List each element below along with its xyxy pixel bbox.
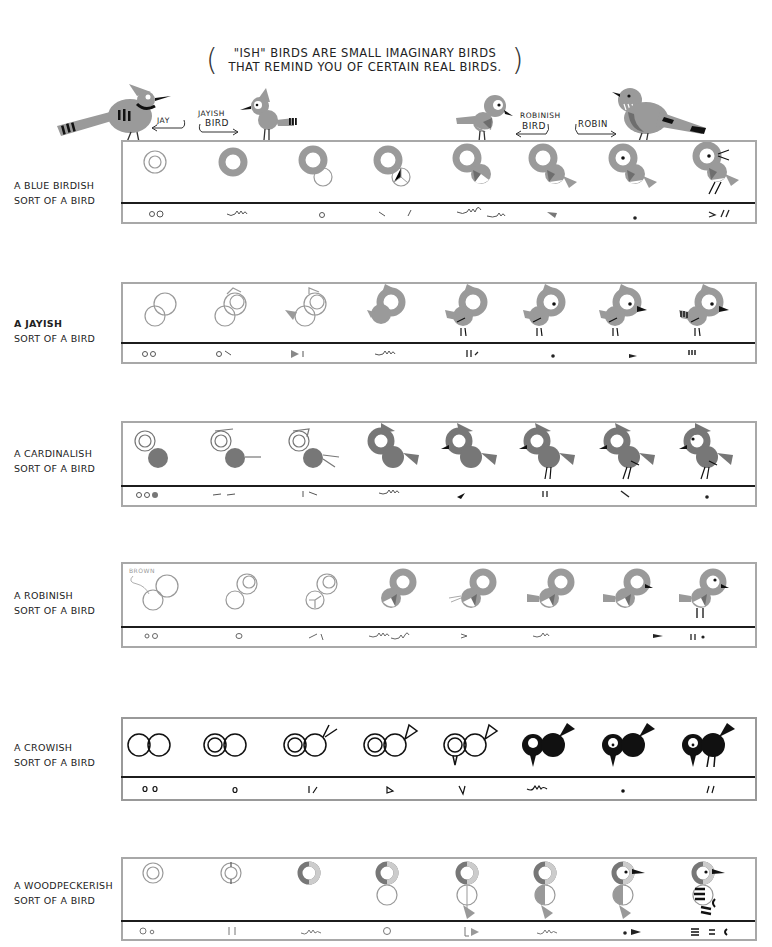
note-brown: BROWN	[129, 566, 155, 575]
row-label-robinish: A ROBINISH SORT OF A BIRD	[14, 588, 95, 618]
perch-line	[121, 776, 755, 778]
robin-illustration	[612, 84, 712, 144]
open-paren: (	[206, 46, 218, 74]
intro-line-1: "ISH" BIRDS ARE SMALL IMAGINARY BIRDS	[210, 46, 520, 60]
jayish-steps	[123, 284, 755, 362]
label-jay: JAY	[157, 116, 170, 125]
frame-bluebirdish	[121, 140, 757, 224]
robinish-steps	[123, 564, 755, 646]
jayish-bird-illustration	[236, 88, 306, 142]
frame-crowish	[121, 717, 757, 801]
row-label-line-2: SORT OF A BIRD	[14, 193, 95, 208]
top-scene: JAY JAYISH BIRD ROBINISH BIRD ROBIN	[0, 78, 772, 142]
row-label-cardinalish: A CARDINALISH SORT OF A BIRD	[14, 446, 95, 476]
perch-line	[121, 626, 755, 628]
row-label-line-2: SORT OF A BIRD	[14, 331, 95, 346]
row-label-line-1: A CARDINALISH	[14, 446, 95, 461]
intro-caption: ( "ISH" BIRDS ARE SMALL IMAGINARY BIRDS …	[210, 46, 520, 74]
row-label-woodpeckerish: A WOODPECKERISH SORT OF A BIRD	[14, 878, 113, 908]
frame-robinish: BROWN	[121, 562, 757, 648]
intro-line-2: THAT REMIND YOU OF CERTAIN REAL BIRDS.	[210, 60, 520, 74]
frame-cardinalish	[121, 421, 757, 507]
label-jayish-1: JAYISH	[198, 109, 225, 118]
perch-line	[121, 202, 755, 204]
crowish-steps	[123, 719, 755, 799]
perch-line	[121, 485, 755, 487]
perch-line	[121, 342, 755, 344]
row-label-line-1: A CROWISH	[14, 740, 95, 755]
arrow-robinish	[512, 122, 552, 140]
row-label-line-1: A BLUE BIRDISH	[14, 178, 95, 193]
row-label-line-1: A WOODPECKERISH	[14, 878, 113, 893]
row-label-line-1: A ROBINISH	[14, 588, 95, 603]
jay-illustration	[55, 82, 175, 144]
label-robinish-1: ROBINISH	[520, 111, 561, 120]
row-label-line-2: SORT OF A BIRD	[14, 893, 113, 908]
close-paren: )	[512, 46, 524, 74]
row-label-crowish: A CROWISH SORT OF A BIRD	[14, 740, 95, 770]
row-label-line-2: SORT OF A BIRD	[14, 461, 95, 476]
bluebirdish-steps	[123, 142, 755, 222]
cardinalish-steps	[123, 423, 755, 505]
row-label-jayish: A JAYISH SORT OF A BIRD	[14, 316, 95, 346]
perch-line	[121, 920, 755, 922]
row-label-line-1: A JAYISH	[14, 316, 95, 331]
frame-woodpeckerish	[121, 857, 757, 941]
row-label-bluebirdish: A BLUE BIRDISH SORT OF A BIRD	[14, 178, 95, 208]
frame-jayish	[121, 282, 757, 364]
row-label-line-2: SORT OF A BIRD	[14, 755, 95, 770]
woodpeckerish-steps	[123, 859, 755, 939]
row-label-line-2: SORT OF A BIRD	[14, 603, 95, 618]
